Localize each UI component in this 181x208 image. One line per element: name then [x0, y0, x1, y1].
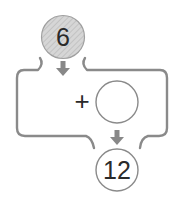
bracket-frame: [17, 58, 167, 148]
start-value: 6: [56, 23, 70, 51]
operand-blank-node[interactable]: [96, 81, 138, 123]
result-node: 12: [96, 149, 138, 191]
start-value-node: 6: [42, 16, 85, 59]
addition-flow-diagram: 6 + 12: [0, 0, 181, 208]
result-value: 12: [103, 156, 131, 184]
arrow-down-icon: [56, 61, 70, 76]
plus-operator: +: [74, 86, 89, 116]
arrow-down-icon: [110, 130, 124, 145]
